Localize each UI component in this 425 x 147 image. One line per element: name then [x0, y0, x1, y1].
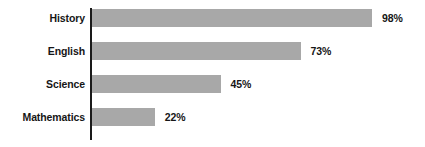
- plot-area: History 98% English 73% Science 45% Math…: [0, 0, 425, 147]
- category-label-english: English: [48, 45, 85, 57]
- bar-row: English 73%: [0, 42, 425, 60]
- bar-mathematics: [92, 108, 155, 126]
- category-label-history: History: [50, 12, 85, 24]
- bar-science: [92, 75, 221, 93]
- bar-track: [92, 108, 155, 126]
- category-label-mathematics: Mathematics: [22, 111, 85, 123]
- bar-row: Mathematics 22%: [0, 108, 425, 126]
- bar-row: Science 45%: [0, 75, 425, 93]
- bar-row: History 98%: [0, 9, 425, 27]
- bar-value-mathematics: 22%: [165, 111, 186, 123]
- bar-track: [92, 42, 301, 60]
- bar-english: [92, 42, 301, 60]
- bar-history: [92, 9, 372, 27]
- bar-chart: History 98% English 73% Science 45% Math…: [0, 0, 425, 147]
- bar-value-english: 73%: [311, 45, 332, 57]
- bar-value-science: 45%: [231, 78, 252, 90]
- category-label-science: Science: [46, 78, 85, 90]
- bar-value-history: 98%: [382, 12, 403, 24]
- bar-track: [92, 75, 221, 93]
- bar-track: [92, 9, 372, 27]
